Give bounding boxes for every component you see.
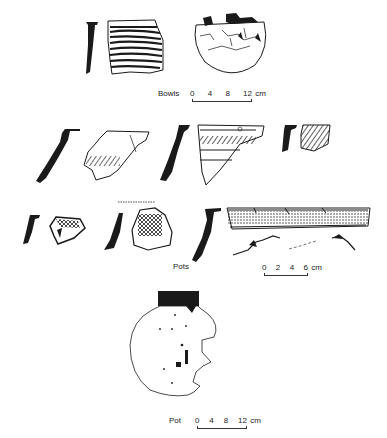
- pot-profile-5: [104, 213, 123, 250]
- bowl-rim-profile: [86, 22, 98, 74]
- pots-label: Pots: [173, 262, 189, 271]
- pot-profile-3: [282, 125, 297, 152]
- scale-tick: 12: [243, 89, 252, 99]
- scale-tick: 0: [262, 263, 266, 273]
- scale-tick: 0: [195, 416, 199, 426]
- pot-scale-bar: 0 4 8 12 cm: [195, 416, 261, 426]
- scale-line: [192, 101, 252, 102]
- bowls-scale-bar: 0 4 8 12 cm: [190, 89, 266, 99]
- scale-tick: 4: [209, 416, 213, 426]
- scale-tick: 4: [208, 89, 212, 99]
- scale-tick: 4: [290, 263, 294, 273]
- pot-sherd-5: [132, 208, 172, 250]
- scale-tick: 2: [276, 263, 280, 273]
- pot-sherd-4: [50, 217, 85, 244]
- pottery-drawing: Bowls: [0, 0, 387, 438]
- pot-profile-1: [36, 129, 80, 183]
- bowls-label: Bowls: [158, 89, 179, 98]
- pot-label: Pot: [169, 416, 182, 425]
- scale-tick: 0: [190, 89, 194, 99]
- pots-scale-bar: 0 2 4 6 cm: [262, 263, 322, 273]
- pot-sherd-3: [301, 125, 330, 151]
- bowl-striped-sherd: [108, 20, 163, 74]
- scale-tick: 12: [238, 416, 247, 426]
- scale-unit: cm: [250, 416, 261, 426]
- bowl-restored-vessel: [195, 13, 266, 73]
- scale-tick: 6: [304, 263, 308, 273]
- scale-tick: 8: [225, 89, 229, 99]
- scale-line: [197, 428, 247, 429]
- scale-unit: cm: [255, 89, 266, 99]
- pot-sherd-2: [198, 125, 264, 185]
- pot-profile-6: [192, 208, 221, 262]
- pot-sherd-1: [84, 131, 149, 180]
- scale-tick: 8: [224, 416, 228, 426]
- pot-rim-band-sherd: [227, 208, 370, 255]
- pot-profile-2: [160, 125, 190, 181]
- pot-restored-vessel: [130, 291, 216, 396]
- scale-line: [264, 275, 308, 276]
- scale-unit: cm: [311, 263, 322, 273]
- pot-profile-4: [23, 215, 40, 244]
